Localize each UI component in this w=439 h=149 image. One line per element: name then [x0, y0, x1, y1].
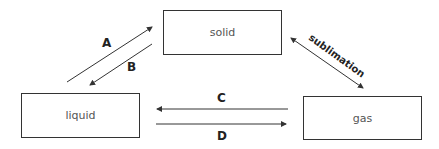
state-solid: solid: [163, 10, 282, 55]
label-d: D: [217, 129, 227, 143]
label-c: C: [217, 91, 226, 105]
label-b: B: [127, 60, 136, 74]
state-liquid: liquid: [21, 93, 140, 138]
state-liquid-label: liquid: [65, 109, 95, 122]
phase-diagram: sublimation solid liquid gas A B C D: [0, 0, 439, 149]
state-gas-label: gas: [353, 112, 372, 125]
label-a: A: [102, 36, 111, 50]
arrow-b: [90, 44, 152, 85]
state-solid-label: solid: [210, 26, 236, 39]
state-gas: gas: [303, 96, 422, 140]
